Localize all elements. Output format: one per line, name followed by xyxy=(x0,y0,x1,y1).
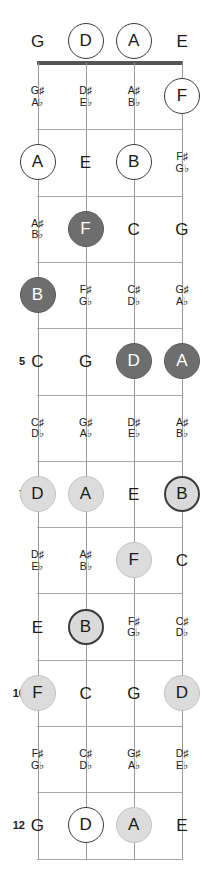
note-label: A xyxy=(32,152,44,172)
open-string-label-E: E xyxy=(158,32,206,52)
note-fret2-string3-marker[interactable]: B xyxy=(116,144,152,180)
note-label: G xyxy=(62,353,110,370)
fret-line-6 xyxy=(37,461,183,462)
note-label: B xyxy=(32,285,44,305)
note-fret9-string3-accidental: F♯ G♭ xyxy=(110,616,158,639)
note-label: G♯ A♭ xyxy=(110,748,158,771)
fret-line-11 xyxy=(37,792,183,793)
note-fret12-string2-marker[interactable]: D xyxy=(68,807,104,843)
note-label: D♯ E♭ xyxy=(62,85,110,108)
fret-line-5 xyxy=(37,395,183,396)
note-fret12-string3-marker[interactable]: A xyxy=(116,807,152,843)
string-G xyxy=(38,63,39,859)
note-fret5-string2-plain: G xyxy=(62,353,110,370)
note-fret1-string2-accidental: D♯ E♭ xyxy=(62,85,110,108)
note-fret1-string4-marker[interactable]: F xyxy=(164,78,200,114)
note-label: C♯ D♭ xyxy=(14,417,62,440)
note-fret10-string1-marker[interactable]: F xyxy=(20,675,56,711)
note-label: D xyxy=(79,815,92,835)
note-fret8-string4-plain: C xyxy=(158,552,206,569)
note-fret6-string4-accidental: A♯ B♭ xyxy=(158,417,206,440)
note-label: A xyxy=(80,484,92,504)
note-fret7-string1-marker[interactable]: D xyxy=(20,476,56,512)
note-fret11-string4-accidental: D♯ E♭ xyxy=(158,748,206,771)
fret-line-8 xyxy=(37,593,183,594)
note-label: G xyxy=(158,221,206,238)
note-fret2-string2-plain: E xyxy=(62,154,110,171)
note-fret7-string4-marker[interactable]: B xyxy=(164,476,200,512)
note-fret8-string1-accidental: D♯ E♭ xyxy=(14,549,62,572)
note-fret6-string3-accidental: D♯ E♭ xyxy=(110,417,158,440)
note-fret1-string1-accidental: G♯ A♭ xyxy=(14,85,62,108)
note-label: F♯ G♭ xyxy=(62,284,110,307)
note-fret8-string2-accidental: A♯ B♭ xyxy=(62,549,110,572)
note-label: C♯ D♭ xyxy=(110,284,158,307)
note-fret7-string2-marker[interactable]: A xyxy=(68,476,104,512)
open-string-label: A xyxy=(128,31,140,51)
note-fret4-string1-marker[interactable]: B xyxy=(20,277,56,313)
note-fret7-string3-plain: E xyxy=(110,486,158,503)
note-label: A xyxy=(128,815,140,835)
note-label: G♯ A♭ xyxy=(158,284,206,307)
open-string-label-G: G xyxy=(14,32,62,52)
note-fret9-string2-marker[interactable]: B xyxy=(68,609,104,645)
note-fret3-string1-accidental: A♯ B♭ xyxy=(14,218,62,241)
open-string-marker-A[interactable]: A xyxy=(116,23,152,59)
note-fret4-string2-accidental: F♯ G♭ xyxy=(62,284,110,307)
note-label: A♯ B♭ xyxy=(14,218,62,241)
note-fret4-string3-accidental: C♯ D♭ xyxy=(110,284,158,307)
note-label: D♯ E♭ xyxy=(158,748,206,771)
note-label: C xyxy=(14,353,62,370)
note-fret6-string2-accidental: G♯ A♭ xyxy=(62,417,110,440)
note-label: G xyxy=(14,817,62,834)
note-fret5-string4-marker[interactable]: A xyxy=(164,343,200,379)
note-label: B xyxy=(176,484,188,504)
note-label: G xyxy=(110,685,158,702)
note-fret11-string3-accidental: G♯ A♭ xyxy=(110,748,158,771)
note-label: F xyxy=(129,550,140,570)
string-E xyxy=(182,63,183,859)
note-label: C xyxy=(110,221,158,238)
fretboard-diagram: GDAE571012G♯ A♭D♯ E♭A♯ B♭FAEBF♯ G♭A♯ B♭F… xyxy=(0,0,207,881)
note-label: B xyxy=(80,617,92,637)
fret-line-12 xyxy=(37,859,183,860)
note-label: A xyxy=(176,351,188,371)
string-D xyxy=(86,63,87,859)
note-fret1-string3-accidental: A♯ B♭ xyxy=(110,85,158,108)
note-fret6-string1-accidental: C♯ D♭ xyxy=(14,417,62,440)
note-fret9-string1-plain: E xyxy=(14,619,62,636)
note-fret10-string4-marker[interactable]: D xyxy=(164,675,200,711)
note-label: F xyxy=(177,86,188,106)
fret-line-4 xyxy=(37,328,183,329)
note-label: F♯ G♭ xyxy=(158,151,206,174)
note-fret3-string2-marker[interactable]: F xyxy=(68,211,104,247)
fret-line-9 xyxy=(37,660,183,661)
note-label: G♯ A♭ xyxy=(62,417,110,440)
note-label: C♯ D♭ xyxy=(62,748,110,771)
note-label: C xyxy=(158,552,206,569)
fret-line-1 xyxy=(37,129,183,130)
note-fret3-string4-plain: G xyxy=(158,221,206,238)
note-label: B xyxy=(128,152,140,172)
note-label: A♯ B♭ xyxy=(62,549,110,572)
note-label: E xyxy=(62,154,110,171)
note-fret2-string4-accidental: F♯ G♭ xyxy=(158,151,206,174)
fret-line-2 xyxy=(37,196,183,197)
note-label: F xyxy=(32,683,43,703)
note-fret8-string3-marker[interactable]: F xyxy=(116,542,152,578)
note-fret5-string3-marker[interactable]: D xyxy=(116,343,152,379)
open-string-label: D xyxy=(79,31,92,51)
note-fret10-string3-plain: G xyxy=(110,685,158,702)
note-fret12-string1-plain: G xyxy=(14,817,62,834)
fret-line-10 xyxy=(37,726,183,727)
note-fret2-string1-marker[interactable]: A xyxy=(20,144,56,180)
fret-line-7 xyxy=(37,527,183,528)
note-fret9-string4-accidental: C♯ D♭ xyxy=(158,616,206,639)
note-label: G♯ A♭ xyxy=(14,85,62,108)
note-label: C♯ D♭ xyxy=(158,616,206,639)
open-string-marker-D[interactable]: D xyxy=(68,23,104,59)
fret-line-3 xyxy=(37,262,183,263)
note-label: D♯ E♭ xyxy=(14,549,62,572)
note-fret11-string2-accidental: C♯ D♭ xyxy=(62,748,110,771)
note-label: F♯ G♭ xyxy=(110,616,158,639)
